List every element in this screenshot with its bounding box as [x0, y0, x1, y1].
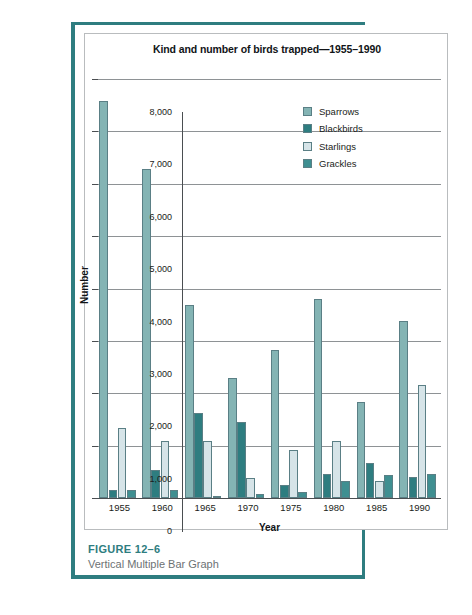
y-tick-label-4000: 4,000 [126, 317, 172, 327]
y-tick-label-8000: 8,000 [126, 107, 172, 117]
y-tick-label-2000: 2,000 [126, 421, 172, 431]
bar-grackles-1990 [427, 474, 436, 498]
bar-blackbirds-1985 [366, 463, 375, 498]
bar-sparrows-1970 [228, 378, 237, 498]
plot-area: 19551960196519701975198019851990 Year Sp… [98, 79, 441, 498]
x-tick-label-1985: 1985 [355, 502, 398, 513]
y-tick-7000 [92, 131, 98, 132]
bar-grackles-1985 [384, 475, 393, 498]
frame-bottom-rule [71, 575, 365, 579]
legend-swatch-starlings [303, 142, 312, 151]
y-tick-1000 [92, 446, 98, 447]
gridline-0 [98, 498, 441, 499]
y-tick-label-0: 0 [126, 526, 172, 536]
legend-swatch-sparrows [303, 107, 312, 116]
bar-starlings-1980 [332, 441, 341, 498]
bar-starlings-1985 [375, 481, 384, 498]
bar-sparrows-1985 [357, 402, 366, 498]
y-tick-label-1000: 1,000 [126, 474, 172, 484]
x-tick-label-1990: 1990 [398, 502, 441, 513]
legend-label-sparrows: Sparrows [319, 106, 359, 117]
bar-starlings-1990 [418, 385, 427, 498]
x-tick-label-1960: 1960 [141, 502, 184, 513]
bar-sparrows-1990 [399, 321, 408, 498]
bar-group-1960 [142, 79, 178, 498]
chart-title: Kind and number of birds trapped—1955–19… [85, 43, 449, 55]
y-tick-label-6000: 6,000 [126, 212, 172, 222]
chart-card: Kind and number of birds trapped—1955–19… [84, 33, 448, 530]
frame-left-rule [71, 22, 75, 578]
bar-starlings-1955 [118, 428, 127, 498]
y-tick-6000 [92, 184, 98, 185]
y-axis-line [182, 112, 183, 532]
chart-legend: SparrowsBlackbirdsStarlingsGrackles [303, 103, 423, 173]
x-tick-label-1975: 1975 [270, 502, 313, 513]
bar-sparrows-1965 [185, 305, 194, 498]
bar-sparrows-1955 [99, 101, 108, 498]
bar-blackbirds-1980 [323, 474, 332, 498]
bar-grackles-1955 [127, 490, 136, 498]
x-tick-label-1980: 1980 [312, 502, 355, 513]
bar-blackbirds-1970 [237, 422, 246, 498]
y-tick-3000 [92, 341, 98, 342]
bar-grackles-1965 [213, 496, 222, 498]
y-tick-label-7000: 7,000 [126, 159, 172, 169]
y-tick-5000 [92, 236, 98, 237]
y-tick-label-5000: 5,000 [126, 264, 172, 274]
figure-caption-text: Vertical Multiple Bar Graph [88, 558, 368, 570]
x-tick-label-1965: 1965 [184, 502, 227, 513]
bar-grackles-1980 [341, 481, 350, 498]
figure-caption: FIGURE 12–6 Vertical Multiple Bar Graph [88, 543, 368, 570]
bar-blackbirds-1975 [280, 485, 289, 498]
bar-sparrows-1975 [271, 350, 280, 498]
legend-item-blackbirds: Blackbirds [303, 121, 423, 137]
bar-blackbirds-1990 [409, 477, 418, 498]
bar-group-1965 [185, 79, 221, 498]
figure-number: FIGURE 12–6 [88, 543, 368, 555]
frame-top-rule [71, 22, 365, 25]
y-tick-8000 [92, 79, 98, 80]
legend-label-grackles: Grackles [319, 158, 356, 169]
x-tick-label-1955: 1955 [98, 502, 141, 513]
bar-group-1975 [271, 79, 307, 498]
legend-swatch-grackles [303, 159, 312, 168]
legend-item-sparrows: Sparrows [303, 103, 423, 119]
bar-group-1955 [99, 79, 135, 498]
bar-starlings-1970 [246, 478, 255, 498]
bar-starlings-1965 [203, 441, 212, 498]
legend-item-starlings: Starlings [303, 138, 423, 154]
bar-sparrows-1980 [314, 299, 323, 498]
y-tick-2000 [92, 393, 98, 394]
bar-grackles-1960 [170, 490, 179, 498]
bar-group-1970 [228, 79, 264, 498]
y-tick-4000 [92, 289, 98, 290]
y-tick-0 [92, 498, 98, 499]
bar-grackles-1970 [256, 494, 265, 498]
legend-label-blackbirds: Blackbirds [319, 123, 363, 134]
legend-swatch-blackbirds [303, 124, 312, 133]
y-axis-title: Number [79, 266, 90, 304]
y-tick-label-3000: 3,000 [126, 369, 172, 379]
bar-blackbirds-1965 [194, 413, 203, 498]
bar-blackbirds-1955 [109, 490, 118, 498]
bar-grackles-1975 [298, 492, 307, 498]
bar-starlings-1960 [161, 441, 170, 498]
x-tick-label-1970: 1970 [227, 502, 270, 513]
figure-page: Kind and number of birds trapped—1955–19… [0, 0, 472, 615]
bar-starlings-1975 [289, 450, 298, 498]
legend-item-grackles: Grackles [303, 156, 423, 172]
legend-label-starlings: Starlings [319, 141, 356, 152]
